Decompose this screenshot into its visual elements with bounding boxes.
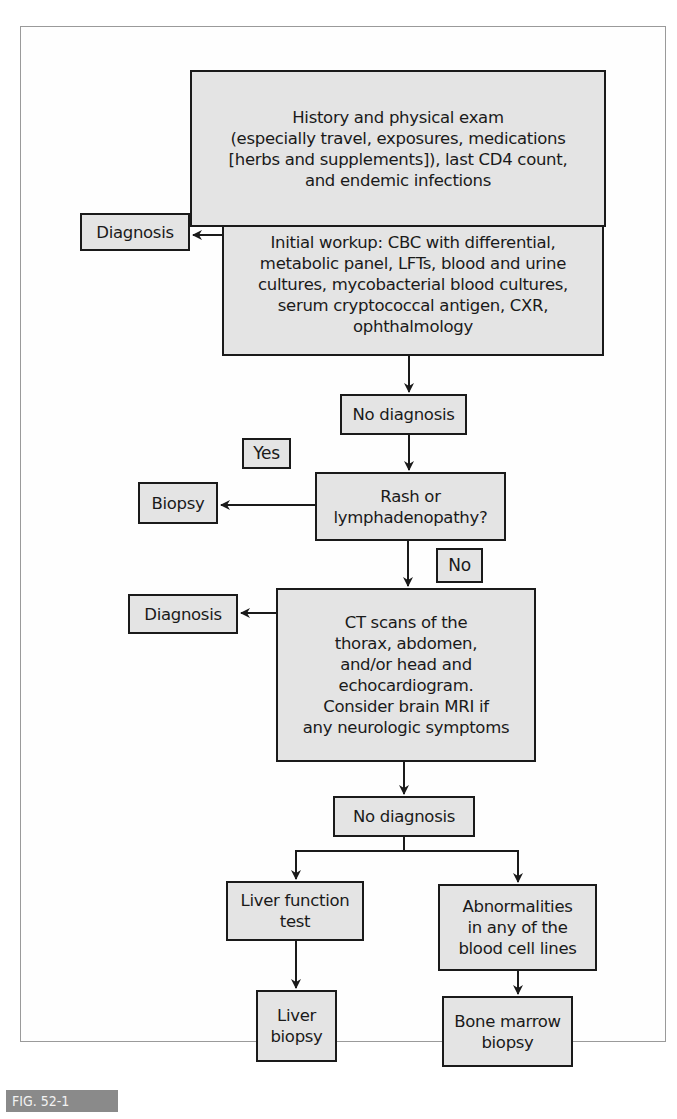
no-diagnosis-box-2: No diagnosis: [333, 796, 475, 837]
ct-scans-box: CT scans of the thorax, abdomen, and/or …: [276, 588, 536, 762]
no-diagnosis-box-1: No diagnosis: [340, 394, 467, 435]
figure-label: FIG. 52-1: [6, 1090, 118, 1112]
diagnosis-box-1: Diagnosis: [80, 213, 190, 251]
blood-cell-abnormalities-box: Abnormalities in any of the blood cell l…: [438, 884, 597, 971]
liver-biopsy-box: Liver biopsy: [256, 990, 337, 1062]
rash-question-box: Rash or lymphadenopathy?: [315, 472, 506, 541]
no-edge-label: No: [436, 548, 483, 583]
initial-workup-box: Initial workup: CBC with differential, m…: [222, 212, 604, 356]
biopsy-box: Biopsy: [138, 482, 218, 524]
liver-function-test-box: Liver function test: [226, 881, 364, 941]
history-box: History and physical exam (especially tr…: [190, 70, 606, 227]
diagnosis-box-2: Diagnosis: [128, 594, 238, 634]
yes-edge-label: Yes: [242, 438, 291, 469]
bone-marrow-biopsy-box: Bone marrow biopsy: [442, 996, 573, 1067]
